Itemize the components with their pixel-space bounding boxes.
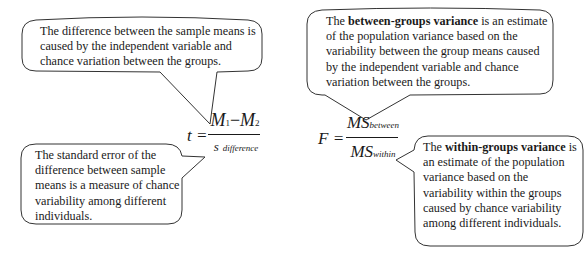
f-formula-denominator: MSwithin — [346, 142, 400, 162]
f-denominator-prefix: The — [423, 140, 445, 154]
minus-sign: − — [230, 110, 240, 130]
t-formula-denominator: s difference — [206, 137, 266, 155]
t-formula-numerator: M1−M2 — [208, 110, 262, 131]
t-numerator-note: The difference between the sample means … — [40, 24, 258, 70]
f-numerator-note: The between-groups variance is an estima… — [326, 14, 550, 90]
s-symbol: s — [214, 139, 219, 154]
f-numerator-prefix: The — [326, 14, 348, 28]
f-denominator-note: The within-groups variance is an estimat… — [423, 140, 581, 231]
m2-subscript: 2 — [255, 118, 260, 128]
f-fraction-bar — [346, 137, 398, 138]
between-subscript: between — [370, 120, 400, 130]
m2-symbol: M — [240, 110, 255, 130]
within-groups-variance-term: within-groups variance — [445, 140, 566, 154]
t-formula-lhs: t = — [187, 126, 207, 146]
difference-subscript: difference — [223, 143, 259, 153]
between-groups-variance-term: between-groups variance — [348, 14, 478, 28]
f-formula-numerator: MSbetween — [344, 113, 402, 133]
t-fraction-bar — [208, 134, 260, 135]
within-subscript: within — [373, 149, 396, 159]
m1-symbol: M — [210, 110, 225, 130]
ms-between-symbol: MS — [347, 113, 370, 132]
t-denominator-note: The standard error of the difference bet… — [35, 148, 181, 224]
ms-within-symbol: MS — [350, 142, 373, 161]
f-formula-lhs: F = — [318, 129, 344, 149]
